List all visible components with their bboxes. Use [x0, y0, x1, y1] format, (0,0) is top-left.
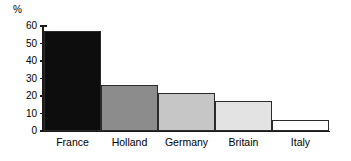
y-axis-tick-label: 0 — [31, 126, 37, 136]
category-label-britain: Britain — [215, 136, 272, 148]
category-label-italy: Italy — [272, 136, 329, 148]
y-axis-tick-label: 20 — [26, 91, 37, 101]
bar-italy — [272, 120, 329, 131]
y-axis-ticks: 0102030405060 — [0, 0, 44, 161]
y-axis-tick-label: 50 — [26, 39, 37, 49]
bar-holland — [101, 85, 158, 131]
y-axis-cap — [43, 25, 47, 27]
bar-germany — [158, 93, 215, 131]
y-axis-tick-label: 40 — [26, 56, 37, 66]
plot-area — [44, 26, 330, 131]
y-axis-cap — [43, 131, 47, 133]
category-label-france: France — [44, 136, 101, 148]
bar-chart: % 0102030405060 FranceHollandGermanyBrit… — [0, 0, 351, 161]
category-label-holland: Holland — [101, 136, 158, 148]
bar-britain — [215, 101, 272, 131]
category-label-germany: Germany — [158, 136, 215, 148]
y-axis-tick-label: 10 — [26, 109, 37, 119]
y-axis-tick-label: 30 — [26, 74, 37, 84]
bar-france — [44, 31, 101, 131]
y-axis-tick-label: 60 — [26, 21, 37, 31]
